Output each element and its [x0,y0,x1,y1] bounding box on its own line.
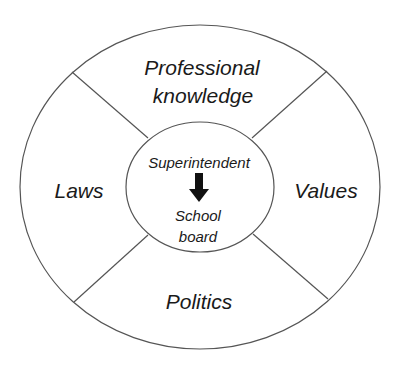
segment-bottom: Politics [166,290,233,313]
down-arrow-icon [189,173,209,202]
center-bottom-label-line1: School [175,207,222,224]
divider-bottom-left [74,235,148,302]
divider-top-right [252,71,327,138]
influence-diagram: Professional knowledge Laws Values Polit… [0,0,398,367]
segment-top-line2: knowledge [153,84,253,107]
segment-top-line1: Professional [144,56,261,79]
segment-left: Laws [54,179,104,202]
center-bottom-label-line2: board [179,228,218,245]
center-top-label: Superintendent [148,154,251,171]
divider-top-left [72,72,148,138]
segment-right: Values [294,179,358,202]
divider-bottom-right [253,234,328,299]
